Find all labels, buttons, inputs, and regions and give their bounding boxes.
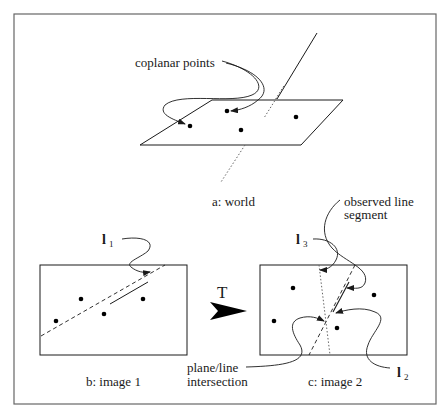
world-point [239, 128, 244, 133]
image1-frame [40, 265, 187, 355]
intersection-label-line1: plane/line [187, 360, 238, 375]
image1-point [79, 297, 84, 302]
intersection-label-line2: intersection [187, 374, 248, 389]
world-line-below [221, 145, 245, 182]
image1-point [54, 319, 59, 324]
coplanar-points-label: coplanar points [135, 55, 215, 70]
diagram-figure: coplanar points a: world l1 b: image 1 T [0, 0, 445, 417]
image1-l1-label: l1 [102, 232, 113, 249]
world-point [225, 109, 230, 114]
image2-l3-label: l3 [296, 232, 308, 249]
image2-point [372, 293, 377, 298]
image2-point [272, 319, 277, 324]
image2-caption: c: image 2 [308, 374, 362, 389]
transform-label: T [217, 283, 228, 302]
image1-point [102, 312, 107, 317]
transform: T [210, 283, 247, 320]
diagram-canvas: coplanar points a: world l1 b: image 1 T [0, 0, 445, 417]
world-point [188, 124, 193, 129]
observed-segment-label-line2: segment [344, 207, 388, 222]
image2-l2-label: l2 [397, 365, 408, 382]
image2-point [335, 326, 340, 331]
image2-point [291, 286, 296, 291]
world-plane [140, 100, 343, 145]
image1-point [141, 297, 146, 302]
world-panel: coplanar points a: world [135, 33, 343, 209]
image1-panel: l1 b: image 1 [40, 232, 187, 389]
image1-caption: b: image 1 [86, 374, 141, 389]
world-caption: a: world [212, 194, 255, 209]
world-line-solid [277, 33, 317, 99]
world-point [294, 115, 299, 120]
arrow-right-icon [210, 302, 247, 320]
